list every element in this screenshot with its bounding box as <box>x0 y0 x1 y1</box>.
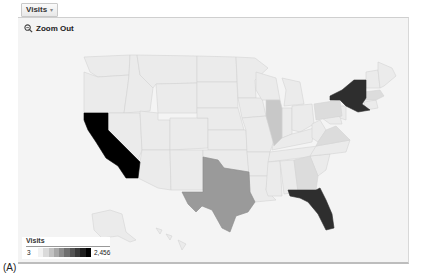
legend-divider <box>26 246 110 247</box>
zoom-out-button[interactable]: Zoom Out <box>24 24 74 33</box>
legend-swatch <box>86 248 91 257</box>
state-hawaii[interactable] <box>156 228 186 250</box>
state-kansas[interactable] <box>208 130 247 150</box>
state-north-dakota[interactable] <box>197 56 237 82</box>
state-massachusetts[interactable] <box>364 90 384 100</box>
state-ohio[interactable] <box>292 104 314 132</box>
legend-gradient <box>38 248 91 257</box>
zoom-out-label: Zoom Out <box>36 24 74 33</box>
state-colorado[interactable] <box>170 118 208 150</box>
state-iowa[interactable] <box>238 98 266 118</box>
state-michigan[interactable] <box>282 78 304 106</box>
magnifier-icon <box>24 24 33 33</box>
state-indiana[interactable] <box>282 108 292 138</box>
state-oregon[interactable] <box>84 72 129 113</box>
figure-caption: (A) <box>3 262 16 273</box>
state-arizona[interactable] <box>138 150 171 190</box>
state-south-dakota[interactable] <box>197 82 238 108</box>
state-maine[interactable] <box>378 62 396 88</box>
state-florida[interactable] <box>288 188 334 230</box>
legend-min: 3 <box>27 249 31 256</box>
legend-title: Visits <box>26 237 45 244</box>
state-mississippi[interactable] <box>266 161 282 196</box>
map-legend: Visits 3 2,456 <box>22 237 110 259</box>
state-new-mexico[interactable] <box>170 150 203 190</box>
legend-max: 2,456 <box>94 249 110 256</box>
state-wyoming[interactable] <box>156 83 197 113</box>
state-utah[interactable] <box>140 111 170 150</box>
state-wisconsin[interactable] <box>256 72 280 100</box>
state-vermont-new-hampshire[interactable] <box>366 70 380 88</box>
state-arkansas[interactable] <box>247 152 270 176</box>
state-washington[interactable] <box>84 55 130 77</box>
